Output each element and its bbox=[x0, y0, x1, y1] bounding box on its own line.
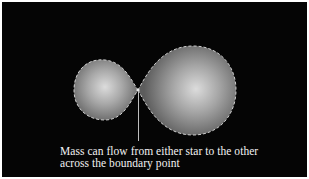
caption-line-1: Mass can flow from either star to the ot… bbox=[60, 145, 300, 157]
left-star-lobe bbox=[74, 60, 138, 120]
caption: Mass can flow from either star to the ot… bbox=[60, 145, 300, 169]
right-star-lobe bbox=[138, 46, 236, 135]
caption-line-2: across the boundary point bbox=[60, 157, 300, 169]
